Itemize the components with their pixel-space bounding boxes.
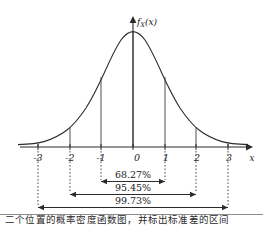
- y-axis-arrowhead: [130, 16, 137, 23]
- interval-one-sigma-arrow-right: [159, 179, 165, 185]
- tick-label-pos3: 3: [226, 152, 232, 163]
- tick-label-pos2: 2: [193, 152, 200, 163]
- tick-label-neg3: -3: [33, 152, 42, 163]
- interval-three-sigma-arrow-left: [38, 205, 44, 211]
- x-axis-label: x: [250, 153, 255, 163]
- interval-three-sigma: 99.73%: [38, 195, 228, 210]
- caption-strip: 二个位置的概率密度函数图，并标出标准差的区间: [0, 214, 263, 225]
- interval-three-sigma-label: 99.73%: [115, 195, 151, 206]
- tick-label-zero: 0: [134, 152, 140, 163]
- interval-two-sigma-arrow-left: [70, 192, 76, 198]
- tick-label-pos1: 1: [163, 152, 169, 163]
- normal-distribution-figure: -3 -2 -1 0 1 2 3 x fX(x) 68.27%: [0, 0, 263, 225]
- interval-one-sigma-label: 68.27%: [115, 169, 151, 180]
- y-axis-label: fX(x): [136, 17, 158, 29]
- y-axis-label-argument: (x): [145, 17, 158, 27]
- caption-text: 二个位置的概率密度函数图，并标出标准差的区间: [5, 214, 229, 225]
- x-axis-tick-labels: -3 -2 -1 0 1 2 3: [33, 152, 232, 163]
- tick-label-neg1: -1: [96, 152, 105, 163]
- interval-two-sigma-label: 95.45%: [115, 182, 151, 193]
- x-axis: [20, 144, 253, 151]
- interval-two-sigma-arrow-right: [190, 192, 196, 198]
- distribution-plot: -3 -2 -1 0 1 2 3 x fX(x) 68.27%: [0, 0, 263, 225]
- interval-one-sigma-arrow-left: [101, 179, 107, 185]
- interval-three-sigma-arrow-right: [222, 205, 228, 211]
- tick-label-neg2: -2: [65, 152, 74, 163]
